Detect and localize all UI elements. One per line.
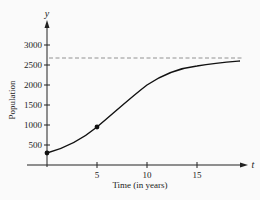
y-tick-label: 1500 [24,100,43,110]
data-point [45,151,50,156]
y-tick-label: 500 [29,140,43,150]
x-tick-label: 15 [193,170,203,180]
x-axis-variable: t [252,159,255,170]
x-tick-label: 10 [143,170,153,180]
data-point [95,125,100,130]
y-tick-label: 3000 [24,40,43,50]
x-axis-label: Time (in years) [112,180,167,190]
x-tick-label: 5 [95,170,100,180]
y-tick-label: 1000 [24,120,43,130]
y-axis-arrow-icon [45,20,50,28]
y-axis-variable: y [44,8,50,19]
y-tick-label: 2500 [24,60,43,70]
y-axis-label: Population [7,80,17,120]
y-ticks: 500 1000 1500 2000 2500 3000 [24,40,50,150]
population-curve [47,61,240,153]
x-axis-arrow-icon [240,163,248,168]
chart: y t 500 1000 1500 2000 2500 3000 5 10 15… [0,0,260,200]
y-tick-label: 2000 [24,80,43,90]
